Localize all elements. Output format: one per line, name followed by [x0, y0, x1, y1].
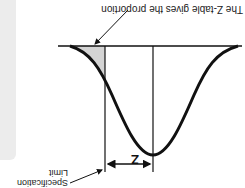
- bell-curve: [70, 46, 238, 155]
- z-label: Z: [131, 152, 139, 167]
- spec-limit-label-line2: Limit: [48, 168, 68, 178]
- callout-text: The Z-table gives the proportion: [101, 4, 243, 15]
- spec-limit-arrow: [70, 170, 102, 183]
- shaded-tail-area: [70, 46, 105, 80]
- diagram-canvas: The Z-table gives the proportion Z Speci…: [0, 0, 245, 188]
- spec-limit-label-line1: Specification: [17, 178, 68, 188]
- normal-distribution-diagram: The Z-table gives the proportion Z Speci…: [0, 0, 245, 188]
